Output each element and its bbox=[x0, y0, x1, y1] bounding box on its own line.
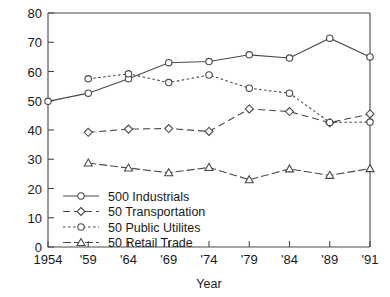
data-point-marker bbox=[85, 76, 91, 82]
legend-marker bbox=[78, 193, 84, 199]
x-tick-label: '89 bbox=[321, 252, 338, 267]
data-point-marker bbox=[327, 119, 333, 125]
legend-marker bbox=[78, 224, 84, 230]
legend-label: 50 Transportation bbox=[108, 205, 205, 219]
x-tick-label: '84 bbox=[281, 252, 298, 267]
data-point-marker bbox=[45, 98, 51, 104]
y-tick-label: 10 bbox=[28, 211, 42, 226]
data-point-marker bbox=[85, 90, 91, 96]
data-point-marker bbox=[286, 90, 292, 96]
x-tick-label: 1954 bbox=[34, 252, 63, 267]
data-point-marker bbox=[166, 60, 172, 66]
line-chart: 01020304050607080 1954'59'64'69'74'79'84… bbox=[0, 0, 390, 297]
x-tick-label: '91 bbox=[362, 252, 379, 267]
data-point-marker bbox=[206, 72, 212, 78]
data-point-marker bbox=[166, 79, 172, 85]
y-tick-label: 80 bbox=[28, 6, 42, 21]
y-tick-label: 20 bbox=[28, 182, 42, 197]
chart-container: 01020304050607080 1954'59'64'69'74'79'84… bbox=[0, 0, 390, 297]
data-point-marker bbox=[125, 71, 131, 77]
x-tick-label: '64 bbox=[120, 252, 137, 267]
data-point-marker bbox=[246, 85, 252, 91]
data-point-marker bbox=[367, 54, 373, 60]
data-point-marker bbox=[246, 52, 252, 58]
y-tick-label: 30 bbox=[28, 152, 42, 167]
x-tick-label: '69 bbox=[160, 252, 177, 267]
x-tick-label: '74 bbox=[201, 252, 218, 267]
data-point-marker bbox=[206, 58, 212, 64]
data-point-marker bbox=[327, 35, 333, 41]
legend-label: 500 Industrials bbox=[108, 190, 189, 204]
legend-label: 50 Public Utilites bbox=[108, 221, 200, 235]
y-tick-label: 70 bbox=[28, 35, 42, 50]
x-axis-title: Year bbox=[196, 277, 221, 291]
x-tick-label: '59 bbox=[80, 252, 97, 267]
legend-label: 50 Retail Trade bbox=[108, 236, 193, 250]
y-tick-label: 60 bbox=[28, 65, 42, 80]
y-tick-label: 40 bbox=[28, 123, 42, 138]
x-tick-label: '79 bbox=[241, 252, 258, 267]
y-tick-label: 50 bbox=[28, 94, 42, 109]
data-point-marker bbox=[367, 119, 373, 125]
data-point-marker bbox=[286, 55, 292, 61]
